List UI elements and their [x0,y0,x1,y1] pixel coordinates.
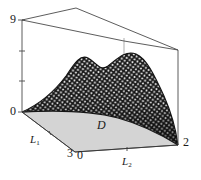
x-axis-label: L1 [30,134,40,145]
y-axis-label-subscript: 2 [128,161,132,169]
z-axis-max-label: 9 [10,13,16,25]
x-axis-max-tick-label: 3 [67,147,73,159]
z-axis-min-label: 0 [10,105,16,117]
y-axis-max-tick-label: 2 [183,136,189,148]
y-axis-label: L2 [122,156,132,167]
z-axis-ticks [18,20,25,112]
region-label-D: D [97,119,106,131]
origin-tick-label: 0 [77,149,83,161]
x-axis-label-subscript: 1 [36,139,40,147]
surface-plot-figure [0,0,201,180]
